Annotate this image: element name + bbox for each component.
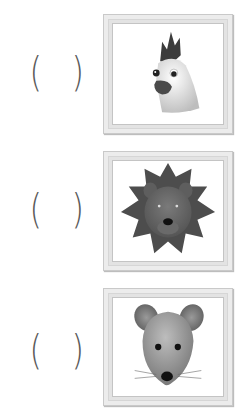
paren-close: ) xyxy=(72,189,84,229)
paren-open: ( xyxy=(30,189,42,229)
paren-close: ) xyxy=(72,52,84,92)
worksheet-item-3: ( ) xyxy=(0,274,248,408)
paren-open: ( xyxy=(30,330,42,370)
picture-frame xyxy=(103,288,233,406)
paren-close: ) xyxy=(72,330,84,370)
worksheet-item-1: ( ) xyxy=(0,0,248,140)
picture-frame xyxy=(103,14,233,134)
rooster-head-icon xyxy=(113,24,223,124)
picture-mat xyxy=(112,297,224,397)
picture-mat xyxy=(112,23,224,125)
mouse-head-icon xyxy=(113,298,223,396)
worksheet-item-2: ( ) xyxy=(0,137,248,277)
lion-head-icon xyxy=(113,161,223,261)
picture-mat xyxy=(112,160,224,262)
paren-open: ( xyxy=(30,52,42,92)
answer-blank[interactable] xyxy=(44,193,70,223)
answer-blank[interactable] xyxy=(44,334,70,364)
picture-frame xyxy=(103,151,233,271)
answer-blank[interactable] xyxy=(44,56,70,86)
